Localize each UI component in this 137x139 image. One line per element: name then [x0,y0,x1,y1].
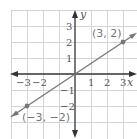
point-label-neg3-neg2: (−3, −2) [22,111,70,124]
point-3-2 [121,40,126,45]
x-tick-neg2: −2 [32,77,47,88]
y-tick-neg1: −1 [60,85,75,96]
point-label-3-2: (3, 2) [92,27,122,40]
y-axis-label: y [79,8,87,21]
x-tick-2: 2 [104,77,110,88]
y-tick-2: 2 [66,37,72,48]
x-tick-1: 1 [88,77,94,88]
x-tick-neg3: −3 [16,77,31,88]
coordinate-plane: y x 3 2 1 −1 −2 −3 −2 1 2 3 (3, 2) (−3, … [0,0,137,139]
y-tick-3: 3 [66,21,72,32]
y-tick-1: 1 [66,53,72,64]
x-tick-3: 3 [120,77,126,88]
x-axis-label: x [127,76,134,89]
point-neg3-neg2 [25,104,30,109]
